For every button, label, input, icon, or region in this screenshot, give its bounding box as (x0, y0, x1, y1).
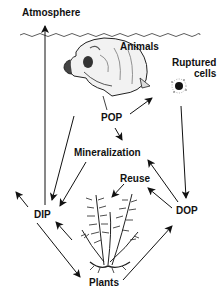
ruptured-cell-illustration (171, 79, 187, 93)
label-reuse: Reuse (120, 173, 150, 184)
arrow-pop-to-mineralization (115, 128, 122, 140)
label-animals: Animals (120, 41, 159, 52)
arrow-dop-to-mineralization (148, 160, 178, 202)
label-atmosphere: Atmosphere (22, 7, 80, 18)
label-dip: DIP (34, 209, 51, 220)
arrow-dop-to-reuse (148, 188, 172, 208)
arrow-ruptured-to-dop (181, 106, 186, 198)
arrow-reuse-to-plants (112, 184, 124, 197)
arrow-dip-to-plants (37, 223, 80, 277)
arrow-pop-to-ruptured (130, 98, 152, 114)
arrow-plants-to-dop (123, 226, 172, 280)
label-pop: POP (101, 112, 122, 123)
water-surface-line (20, 34, 200, 37)
plant-illustration (81, 194, 139, 273)
arrow-animals-to-pop (103, 96, 107, 110)
arrow-mineralization-to-dip (60, 162, 86, 206)
arrow-plants-to-dip (56, 222, 72, 240)
label-mineralization: Mineralization (74, 147, 141, 158)
label-dop: DOP (176, 205, 198, 216)
label-ruptured: Ruptured (172, 57, 216, 68)
label-plants: Plants (89, 277, 119, 288)
arrow-dip-outflow (16, 192, 28, 207)
label-cells: cells (194, 68, 216, 79)
